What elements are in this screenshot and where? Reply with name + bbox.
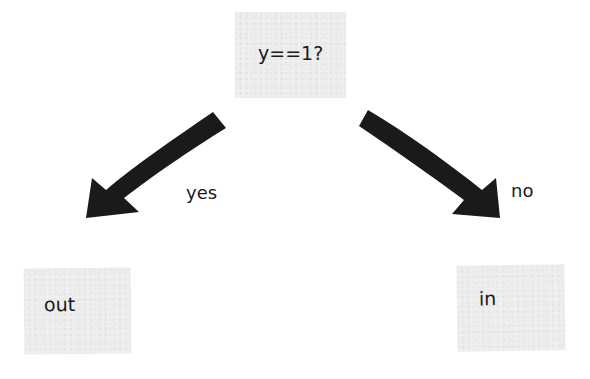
outcome-node-out: out [24,268,132,355]
outcome-node-in: in [456,264,565,351]
edge-label-no: no [511,180,533,201]
outcome-node-out-label: out [44,293,75,315]
outcome-node-in-label: in [479,287,497,309]
arrow-no-icon [359,110,500,218]
edge-label-yes: yes [186,182,217,203]
